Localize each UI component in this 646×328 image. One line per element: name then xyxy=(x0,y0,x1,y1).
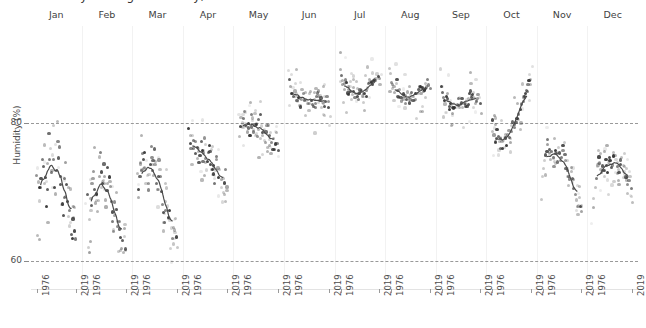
x-tick-mark xyxy=(391,289,392,293)
x-tick-mark xyxy=(581,289,582,293)
facet-label-nov: Nov xyxy=(537,9,588,20)
x-tick-mark xyxy=(379,289,380,293)
x-tick-mark xyxy=(593,289,594,293)
facet-label-dec: Dec xyxy=(587,9,638,20)
x-tick-mark xyxy=(531,289,532,293)
x-tick-mark xyxy=(442,289,443,293)
x-tick-mark xyxy=(341,289,342,293)
x-tick-mark xyxy=(543,289,544,293)
x-tick-mark xyxy=(76,289,77,293)
x-tick-mark xyxy=(239,289,240,293)
x-tick-label: 1976 xyxy=(294,274,304,296)
facet-label-aug: Aug xyxy=(385,9,436,20)
y-tick-mark xyxy=(24,123,29,124)
trend-line-may xyxy=(243,124,274,139)
y-axis-title: Humidity (%) xyxy=(12,90,22,180)
x-tick-mark xyxy=(632,289,633,293)
x-tick-mark xyxy=(480,289,481,293)
facet-label-jan: Jan xyxy=(31,9,82,20)
y-tick-mark xyxy=(24,261,29,262)
trend-line-layer xyxy=(31,26,638,289)
x-tick-mark xyxy=(138,289,139,293)
trend-line-nov xyxy=(546,154,577,192)
x-tick-mark xyxy=(177,289,178,293)
x-tick-label: 1976 xyxy=(597,274,607,296)
x-tick-mark xyxy=(88,289,89,293)
x-tick-label: 1976 xyxy=(193,274,203,296)
x-tick-mark xyxy=(430,289,431,293)
x-tick-mark xyxy=(189,289,190,293)
x-tick-label: 1976 xyxy=(92,274,102,296)
x-tick-label: 1976 xyxy=(41,274,51,296)
facet-label-jul: Jul xyxy=(335,9,386,20)
x-tick-label: 1976 xyxy=(142,274,152,296)
y-tick-label: 80 xyxy=(0,117,22,127)
x-tick-mark xyxy=(227,289,228,293)
x-tick-label: 1976 xyxy=(243,274,253,296)
facet-label-mar: Mar xyxy=(132,9,183,20)
trend-line-jul xyxy=(344,82,375,94)
trend-line-feb xyxy=(91,184,122,229)
trend-line-apr xyxy=(192,146,223,177)
trend-line-aug xyxy=(395,88,426,97)
trend-line-jun xyxy=(294,94,325,101)
trend-line-mar xyxy=(142,167,173,220)
x-tick-label: 2019 xyxy=(636,274,646,296)
x-tick-mark xyxy=(290,289,291,293)
facet-label-apr: Apr xyxy=(183,9,234,20)
facet-label-sep: Sep xyxy=(436,9,487,20)
x-tick-mark xyxy=(278,289,279,293)
trend-line-dec xyxy=(597,163,628,176)
x-tick-mark xyxy=(126,289,127,293)
x-tick-mark xyxy=(329,289,330,293)
x-tick-label: 1976 xyxy=(446,274,456,296)
x-tick-label: 1976 xyxy=(496,274,506,296)
facet-label-feb: Feb xyxy=(82,9,133,20)
trend-line-sep xyxy=(445,98,476,105)
trend-line-jan xyxy=(41,165,72,208)
facet-label-may: May xyxy=(233,9,284,20)
y-tick-label: 60 xyxy=(0,255,22,265)
chart-title: Monthly average humidity, 1976–2019 xyxy=(38,0,278,3)
trend-line-oct xyxy=(496,96,527,140)
facet-label-oct: Oct xyxy=(486,9,537,20)
facet-label-jun: Jun xyxy=(284,9,335,20)
x-tick-label: 1976 xyxy=(345,274,355,296)
x-tick-mark xyxy=(492,289,493,293)
facet-strip-headers: JanFebMarAprMayJunJulAugSepOctNovDec xyxy=(31,9,638,25)
x-tick-mark xyxy=(37,289,38,293)
x-tick-label: 1976 xyxy=(547,274,557,296)
x-tick-label: 1976 xyxy=(395,274,405,296)
plot-panels xyxy=(31,26,638,289)
